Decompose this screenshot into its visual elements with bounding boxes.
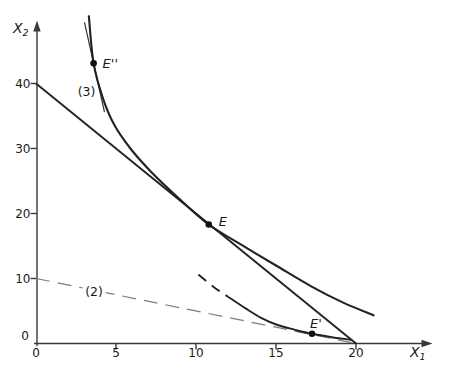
economics-figure: 05101520010203040X2X1(3)(2)E''EE' — [0, 0, 456, 381]
y-tick-label: 40 — [15, 77, 30, 91]
x-tick-label: 0 — [32, 346, 40, 360]
y-axis-arrow-icon — [33, 21, 40, 32]
point-E-label: E — [219, 214, 228, 229]
x-tick-label: 20 — [348, 346, 363, 360]
y-axis-title: X2 — [12, 20, 29, 38]
point-E-prime-marker — [309, 330, 316, 337]
y-tick-label: 10 — [15, 272, 30, 286]
point-E-double-prime-marker — [90, 60, 97, 67]
indifference-curve-lower — [228, 297, 351, 340]
point-E-marker — [206, 221, 213, 228]
y-tick-label: 30 — [15, 142, 30, 156]
indifference-curve-lower-dashed-segment — [198, 275, 228, 297]
x-tick-label: 15 — [268, 346, 283, 360]
y-tick-label: 0 — [21, 329, 29, 343]
x-tick-label: 5 — [112, 346, 120, 360]
label-line-2: (2) — [85, 284, 103, 299]
point-E-prime-label: E' — [310, 316, 322, 331]
y-tick-label: 20 — [15, 207, 30, 221]
label-line-3: (3) — [78, 84, 96, 99]
chart-svg: 05101520010203040X2X1(3)(2)E''EE' — [0, 0, 456, 381]
x-axis-title: X1 — [409, 344, 426, 362]
point-E-double-prime-label: E'' — [103, 56, 118, 71]
indifference-curve-upper — [89, 15, 375, 315]
x-tick-label: 10 — [188, 346, 203, 360]
x-axis-arrow-icon — [422, 340, 433, 347]
